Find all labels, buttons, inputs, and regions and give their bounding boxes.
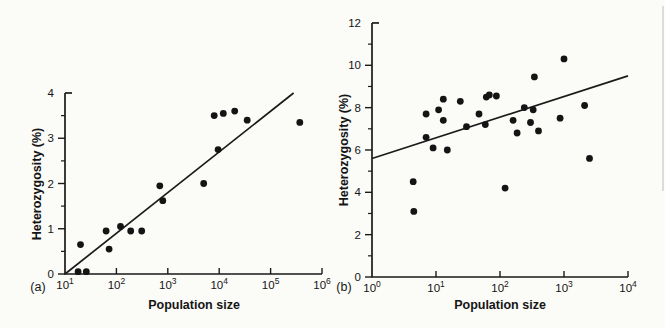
axis-lines [372, 23, 628, 277]
data-point [581, 102, 588, 109]
data-point [220, 110, 227, 117]
data-point [444, 147, 451, 154]
data-point [531, 74, 538, 81]
data-point [200, 180, 207, 187]
data-point [502, 185, 509, 192]
data-point [156, 182, 163, 189]
data-point [493, 93, 500, 100]
data-point [244, 117, 251, 124]
data-point [77, 241, 84, 248]
panel-b-label: (b) [336, 280, 351, 294]
data-point [476, 111, 483, 118]
data-point [482, 121, 489, 128]
scatter-panel-b: 024681012100101102103104 Population size… [336, 17, 637, 312]
two-panel-scatter-figure: 01234101102103104105106 Population size … [0, 0, 665, 328]
data-point [561, 56, 568, 63]
data-point [410, 208, 417, 215]
y-tick-label: 0 [48, 268, 54, 280]
panel-a-x-axis-title: Population size [148, 298, 240, 312]
x-tick-label: 101 [56, 276, 74, 291]
scan-edge-artifact [662, 6, 664, 191]
data-point [557, 115, 564, 122]
data-point [138, 228, 145, 235]
data-point [530, 106, 537, 113]
x-tick-label: 100 [363, 279, 381, 294]
y-tick-label: 1 [48, 223, 54, 235]
y-tick-label: 2 [48, 178, 54, 190]
data-point [211, 112, 218, 119]
data-point [83, 268, 90, 275]
x-tick-label: 102 [108, 276, 126, 291]
data-point [463, 123, 470, 130]
data-point [127, 228, 134, 235]
data-point [430, 145, 437, 152]
data-point [215, 146, 222, 153]
y-tick-label: 4 [48, 87, 55, 99]
x-tick-label: 105 [262, 276, 280, 291]
panel-a-y-axis-title: Heterozygosity (%) [30, 128, 44, 241]
axis-lines [65, 93, 322, 274]
scatter-panel-a: 01234101102103104105106 Population size … [30, 87, 331, 312]
panel-b-x-axis-title: Population size [454, 298, 546, 312]
x-tick-label: 104 [619, 279, 637, 294]
data-point [457, 98, 464, 105]
y-tick-label: 3 [48, 132, 54, 144]
y-tick-label: 2 [355, 229, 361, 241]
regression-line [65, 93, 294, 274]
data-point [435, 106, 442, 113]
panel-b-plot-area: 024681012100101102103104 [348, 17, 637, 294]
data-point [423, 111, 430, 118]
data-point [535, 127, 542, 134]
data-point [586, 155, 593, 162]
x-tick-label: 104 [210, 276, 228, 291]
panel-a-label: (a) [30, 280, 45, 294]
data-point [106, 246, 113, 253]
data-point [423, 134, 430, 141]
x-tick-label: 101 [427, 279, 445, 294]
data-point [117, 223, 124, 230]
x-tick-label: 103 [159, 276, 177, 291]
data-point [521, 104, 528, 111]
data-point [103, 228, 110, 235]
data-point [296, 119, 303, 126]
data-point [514, 130, 521, 137]
data-point [440, 117, 447, 124]
data-point [440, 96, 447, 103]
data-point [75, 268, 82, 275]
data-point [486, 92, 493, 99]
panel-b-y-axis-title: Heterozygosity (%) [337, 94, 351, 207]
data-point [159, 197, 166, 204]
x-tick-label: 103 [555, 279, 573, 294]
data-point [510, 117, 517, 124]
y-tick-label: 12 [348, 17, 361, 29]
y-tick-label: 6 [355, 144, 361, 156]
figure-canvas: 01234101102103104105106 Population size … [0, 0, 665, 328]
data-point [410, 178, 417, 185]
y-tick-label: 10 [348, 59, 361, 71]
x-tick-label: 106 [313, 276, 331, 291]
y-tick-label: 4 [355, 186, 362, 198]
panel-a-plot-area: 01234101102103104105106 [48, 87, 331, 291]
data-point [231, 108, 238, 115]
y-tick-label: 0 [355, 271, 361, 283]
x-tick-label: 102 [491, 279, 509, 294]
y-tick-label: 8 [355, 102, 361, 114]
regression-line [372, 76, 628, 159]
data-point [527, 119, 534, 126]
